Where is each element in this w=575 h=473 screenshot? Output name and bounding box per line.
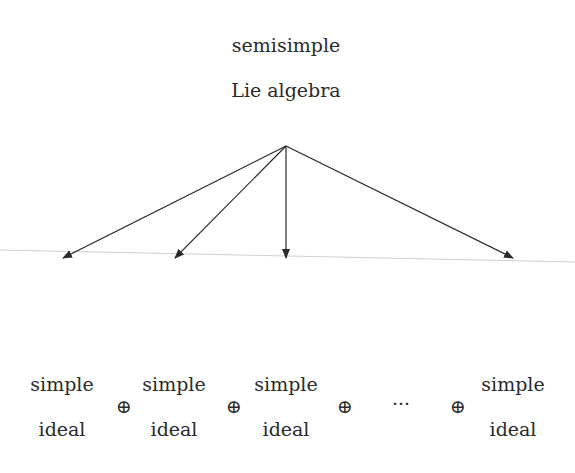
ideal-2-line1: simple: [142, 375, 205, 394]
ideal-3-line1: simple: [254, 375, 317, 394]
ideal-1-line2: ideal: [39, 420, 86, 439]
direct-sum-operator: ⊕: [337, 397, 353, 416]
arrow-to-ideal-4: [286, 146, 513, 258]
ellipsis: ···: [392, 394, 410, 413]
ideal-3-line2: ideal: [263, 420, 310, 439]
ideal-1-line1: simple: [30, 375, 93, 394]
ideal-4-line2: ideal: [490, 420, 537, 439]
arrow-to-ideal-1: [63, 146, 286, 258]
root-label-line1: semisimple: [232, 36, 340, 55]
root-label-line2: Lie algebra: [231, 81, 340, 100]
direct-sum-operator: ⊕: [226, 397, 242, 416]
ideal-4-line1: simple: [481, 375, 544, 394]
ideal-2-line2: ideal: [151, 420, 198, 439]
arrow-diagram: [0, 0, 575, 473]
direct-sum-operator: ⊕: [116, 397, 132, 416]
arrow-to-ideal-2: [175, 146, 286, 258]
faint-scan-line: [0, 250, 575, 262]
direct-sum-operator: ⊕: [450, 397, 466, 416]
